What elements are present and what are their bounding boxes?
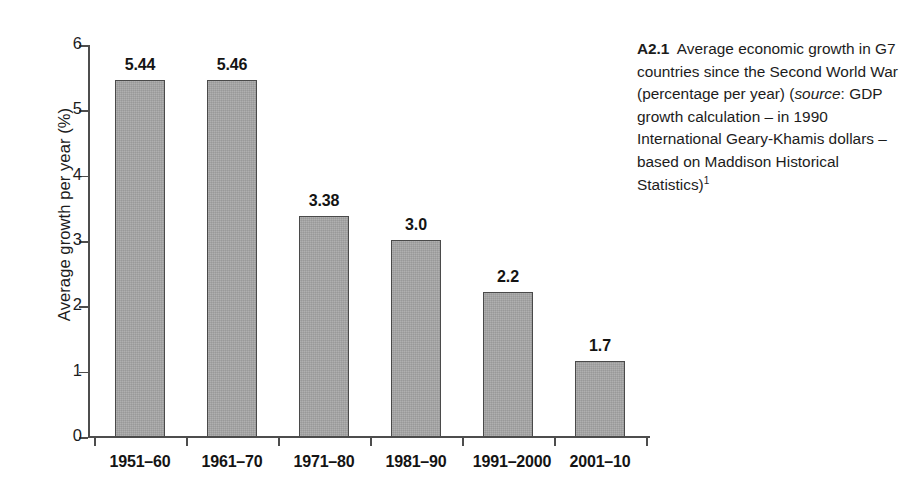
x-axis-label-2001-10: 2001–10 [545, 453, 655, 471]
bar-value-1971-80: 3.38 [284, 192, 364, 210]
y-axis-title: Average growth per year (%) [55, 25, 74, 405]
bar-value-1981-90: 3.0 [376, 216, 456, 234]
y-tick-label-2: 2 [73, 295, 82, 314]
bar-chart: Average growth per year (%) 0 1 2 3 [0, 0, 660, 492]
y-axis-line [88, 45, 90, 437]
x-tick-edge-left [94, 436, 96, 446]
x-tick-2 [278, 436, 280, 446]
x-tick-3 [370, 436, 372, 446]
bar-1991-2000 [483, 292, 533, 437]
caption-number: A2.1 [637, 40, 669, 57]
bar-1981-90 [391, 240, 441, 437]
caption-spacer [669, 40, 677, 57]
x-tick-5 [554, 436, 556, 446]
plot-area: 0 1 2 3 4 5 6 [88, 45, 650, 437]
x-tick-edge-right [646, 436, 648, 446]
figure-caption: A2.1 Average economic growth in G7 count… [637, 38, 899, 196]
bar-value-1961-70: 5.46 [192, 56, 272, 74]
y-tick-label-5: 5 [73, 99, 82, 118]
y-tick-label-3: 3 [73, 230, 82, 249]
y-tick-label-6: 6 [73, 34, 82, 53]
caption-footnote-marker: 1 [704, 174, 710, 185]
bar-2001-10 [575, 361, 625, 438]
x-tick-4 [462, 436, 464, 446]
bar-value-1991-2000: 2.2 [468, 268, 548, 286]
x-axis-line [88, 436, 650, 438]
bar-value-2001-10: 1.7 [560, 337, 640, 355]
figure-a2-1: Average growth per year (%) 0 1 2 3 [0, 0, 903, 492]
bar-1961-70 [207, 80, 257, 437]
x-tick-1 [186, 436, 188, 446]
bar-1951-60 [115, 80, 165, 437]
y-tick-label-4: 4 [73, 165, 82, 184]
bar-1971-80 [299, 216, 349, 437]
bar-value-1951-60: 5.44 [100, 56, 180, 74]
y-tick-label-0: 0 [73, 426, 82, 445]
y-tick-label-1: 1 [73, 361, 82, 380]
caption-source-word: source [794, 85, 840, 102]
